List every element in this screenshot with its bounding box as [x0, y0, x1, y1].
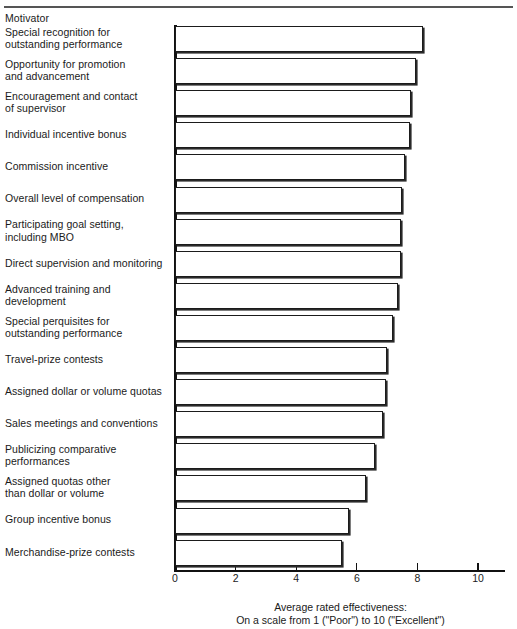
category-label-line: Individual incentive bonus [5, 128, 173, 140]
category-label: Encouragement and contactof supervisor [5, 90, 173, 114]
chart-figure: Motivator 0246810 Special recognition fo… [0, 0, 517, 629]
category-label-line: Merchandise-prize contests [5, 546, 173, 558]
x-tick-10 [477, 563, 478, 570]
bar [175, 58, 416, 84]
category-label: Advanced training anddevelopment [5, 283, 173, 307]
category-label: Opportunity for promotionand advancement [5, 58, 173, 82]
bar [175, 90, 411, 116]
category-label-line: Direct supervision and monitoring [5, 257, 173, 269]
category-label: Travel-prize contests [5, 353, 173, 365]
x-tick-label-10: 10 [472, 572, 484, 584]
category-label-line: Assigned quotas other [5, 475, 173, 487]
category-label: Commission incentive [5, 160, 173, 172]
category-label-line: Opportunity for promotion [5, 58, 173, 70]
x-tick-label-2: 2 [233, 572, 239, 584]
bar [175, 347, 387, 373]
category-label: Individual incentive bonus [5, 128, 173, 140]
category-label: Participating goal setting,including MBO [5, 218, 173, 242]
bar [175, 283, 398, 309]
category-label-line: development [5, 295, 173, 307]
x-axis-line [174, 570, 505, 572]
category-label: Assigned dollar or volume quotas [5, 385, 173, 397]
category-label: Special recognition foroutstanding perfo… [5, 26, 173, 50]
bar [175, 26, 423, 52]
category-label-line: outstanding performance [5, 327, 173, 339]
bar [175, 154, 405, 180]
category-label-line: Participating goal setting, [5, 218, 173, 230]
category-label-line: than dollar or volume [5, 487, 173, 499]
category-label: Overall level of compensation [5, 192, 173, 204]
category-label-line: of supervisor [5, 102, 173, 114]
x-tick-label-6: 6 [354, 572, 360, 584]
category-label-line: outstanding performance [5, 38, 173, 50]
category-label-line: performances [5, 455, 173, 467]
bar [175, 540, 342, 566]
x-tick-6 [356, 563, 357, 570]
bar [175, 187, 402, 213]
bar [175, 219, 401, 245]
caption-line-1: Average rated effectiveness: [175, 601, 506, 614]
axis-caption: Average rated effectiveness: On a scale … [175, 601, 506, 626]
category-label-line: Advanced training and [5, 283, 173, 295]
bar [175, 379, 386, 405]
x-tick-label-0: 0 [172, 572, 178, 584]
category-label-line: Group incentive bonus [5, 513, 173, 525]
category-label: Sales meetings and conventions [5, 417, 173, 429]
bar [175, 508, 349, 534]
bar [175, 411, 383, 437]
x-tick-label-4: 4 [293, 572, 299, 584]
caption-line-2: On a scale from 1 ("Poor") to 10 ("Excel… [175, 614, 506, 627]
category-label-line: and advancement [5, 70, 173, 82]
x-tick-label-8: 8 [414, 572, 420, 584]
bar [175, 475, 366, 501]
category-label-line: Special recognition for [5, 26, 173, 38]
category-label-line: Sales meetings and conventions [5, 417, 173, 429]
bar [175, 122, 410, 148]
category-label: Group incentive bonus [5, 513, 173, 525]
plot-area: 0246810 Special recognition foroutstandi… [0, 0, 517, 629]
category-label: Publicizing comparativeperformances [5, 443, 173, 467]
category-label: Merchandise-prize contests [5, 546, 173, 558]
category-label-line: Travel-prize contests [5, 353, 173, 365]
category-label-line: Encouragement and contact [5, 90, 173, 102]
category-label-line: Special perquisites for [5, 315, 173, 327]
x-tick-8 [417, 563, 418, 570]
category-label-line: Publicizing comparative [5, 443, 173, 455]
bar [175, 443, 375, 469]
bar [175, 251, 401, 277]
category-label-line: including MBO [5, 231, 173, 243]
category-label: Assigned quotas otherthan dollar or volu… [5, 475, 173, 499]
category-label-line: Assigned dollar or volume quotas [5, 385, 173, 397]
category-label-line: Overall level of compensation [5, 192, 173, 204]
bar [175, 315, 393, 341]
category-label-line: Commission incentive [5, 160, 173, 172]
category-label: Direct supervision and monitoring [5, 257, 173, 269]
category-label: Special perquisites foroutstanding perfo… [5, 315, 173, 339]
